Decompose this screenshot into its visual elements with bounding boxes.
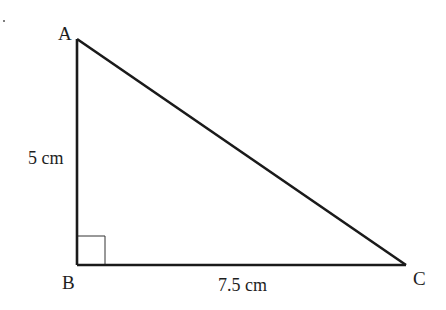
vertex-label-b: B [62,272,75,293]
right-angle-marker [77,236,105,265]
side-ab-length-label: 5 cm [28,148,64,168]
side-bc-length-label: 7.5 cm [218,275,267,295]
stray-dot [3,20,5,22]
vertex-label-a: A [58,23,72,44]
side-ac-hypotenuse [77,39,406,265]
vertex-label-c: C [413,268,426,289]
triangle-figure: A B C 5 cm 7.5 cm [0,0,446,310]
triangle-diagram: A B C 5 cm 7.5 cm [0,0,446,310]
